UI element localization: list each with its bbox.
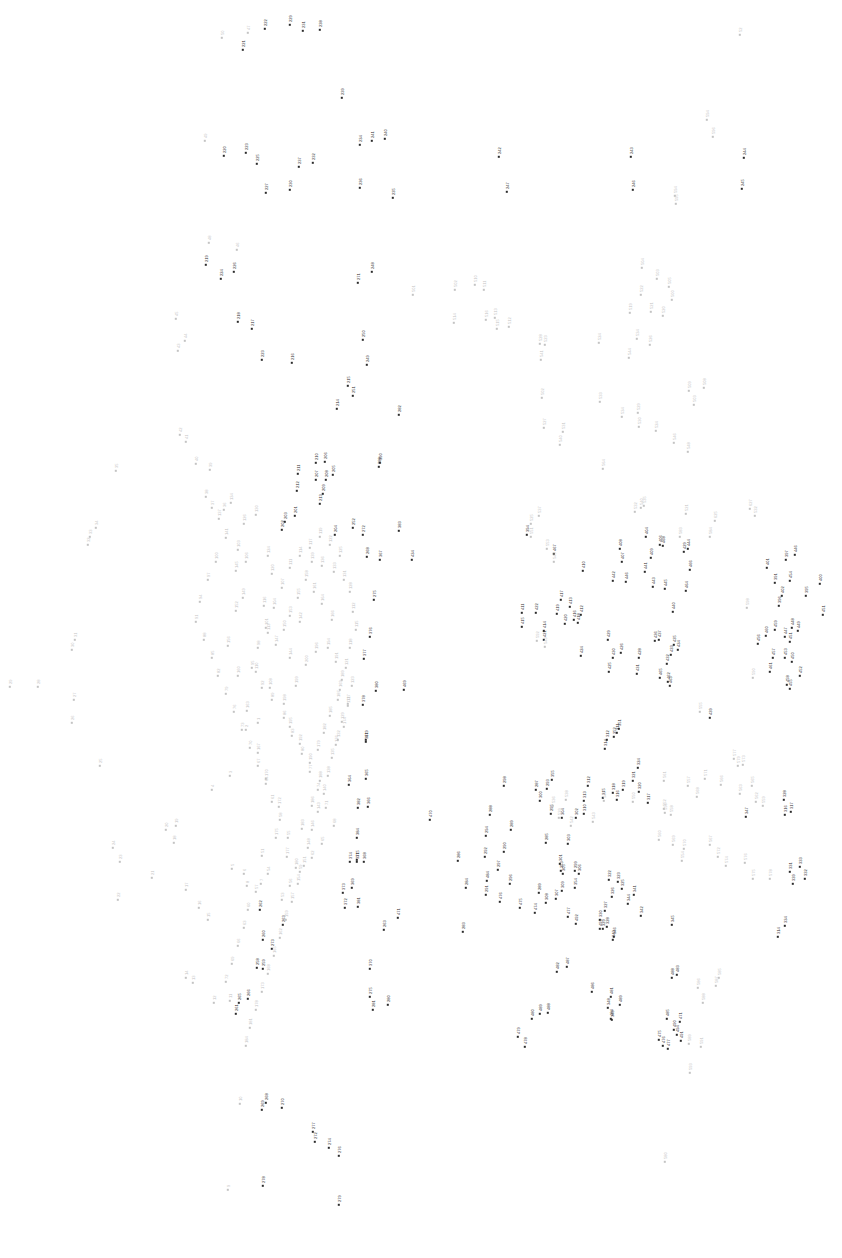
scatter-point-label: 36 bbox=[223, 502, 227, 507]
scatter-point bbox=[317, 789, 319, 791]
scatter-point bbox=[379, 462, 381, 464]
scatter-point bbox=[573, 619, 575, 621]
scatter-point-label: 468 bbox=[662, 536, 666, 543]
scatter-point bbox=[184, 340, 186, 342]
scatter-point bbox=[503, 785, 505, 787]
scatter-point-label: 514 bbox=[453, 313, 457, 320]
scatter-point bbox=[610, 1018, 612, 1020]
scatter-point-label: 434 bbox=[677, 640, 681, 647]
scatter-point bbox=[283, 717, 285, 719]
scatter-point-label: 164 bbox=[321, 594, 325, 601]
scatter-point bbox=[229, 775, 231, 777]
scatter-point-label: 74 bbox=[317, 782, 321, 787]
scatter-point bbox=[749, 508, 751, 510]
scatter-point-label: 50 bbox=[221, 30, 225, 35]
scatter-point-label: 155 bbox=[297, 588, 301, 595]
scatter-point-label: 183 bbox=[301, 819, 305, 826]
scatter-point bbox=[237, 675, 239, 677]
scatter-point-label: 272 bbox=[314, 1132, 318, 1139]
scatter-point-label: 22 bbox=[117, 892, 121, 897]
scatter-point-label: 576 bbox=[744, 853, 748, 860]
scatter-point bbox=[235, 610, 237, 612]
scatter-point bbox=[231, 868, 233, 870]
scatter-point-label: 235 bbox=[392, 188, 396, 195]
scatter-point bbox=[239, 1103, 241, 1105]
scatter-point bbox=[351, 685, 353, 687]
scatter-point bbox=[751, 785, 753, 787]
scatter-point bbox=[454, 289, 456, 291]
scatter-point bbox=[560, 870, 562, 872]
scatter-point-label: 7 bbox=[260, 879, 264, 881]
scatter-point-label: 411 bbox=[521, 603, 525, 610]
scatter-point-label: 307 bbox=[555, 889, 559, 896]
scatter-point bbox=[544, 344, 546, 346]
scatter-point-label: 317 bbox=[647, 793, 651, 800]
scatter-point-label: 525 bbox=[530, 514, 534, 521]
scatter-point bbox=[289, 885, 291, 887]
scatter-point bbox=[261, 855, 263, 857]
scatter-point bbox=[298, 166, 300, 168]
scatter-point bbox=[333, 571, 335, 573]
scatter-point bbox=[311, 857, 313, 859]
scatter-point-label: 248 bbox=[371, 262, 375, 269]
scatter-point-label: 243 bbox=[630, 147, 634, 154]
scatter-point-label: 17 bbox=[185, 882, 189, 887]
scatter-point bbox=[599, 401, 601, 403]
scatter-point-label: 285 bbox=[545, 833, 549, 840]
scatter-point bbox=[207, 919, 209, 921]
scatter-point-label: 535 bbox=[643, 496, 647, 503]
scatter-point bbox=[247, 32, 249, 34]
scatter-point bbox=[281, 587, 283, 589]
scatter-point-label: 152 bbox=[235, 601, 239, 608]
scatter-point-label: 486 bbox=[591, 982, 595, 989]
scatter-point bbox=[332, 474, 334, 476]
scatter-point-label: 309 bbox=[561, 881, 565, 888]
scatter-point bbox=[309, 547, 311, 549]
scatter-point bbox=[429, 819, 431, 821]
scatter-point bbox=[265, 783, 267, 785]
scatter-point-label: 100 bbox=[215, 552, 219, 559]
scatter-point bbox=[706, 119, 708, 121]
scatter-point-label: 82 bbox=[217, 668, 221, 673]
scatter-point-label: 313 bbox=[583, 791, 587, 798]
scatter-point bbox=[664, 1161, 666, 1163]
scatter-point-label: 288 bbox=[489, 805, 493, 812]
scatter-point-label: 562 bbox=[755, 792, 759, 799]
scatter-point bbox=[555, 898, 557, 900]
scatter-point-label: 532 bbox=[754, 506, 758, 513]
scatter-point-label: 205 bbox=[332, 465, 336, 472]
scatter-point bbox=[702, 1002, 704, 1004]
scatter-point-label: 488 bbox=[547, 1003, 551, 1010]
scatter-point bbox=[744, 862, 746, 864]
scatter-point bbox=[703, 387, 705, 389]
scatter-point bbox=[275, 644, 277, 646]
scatter-point bbox=[213, 1002, 215, 1004]
scatter-point bbox=[315, 462, 317, 464]
scatter-point bbox=[287, 837, 289, 839]
scatter-point-label: 244 bbox=[743, 148, 747, 155]
scatter-point-label: 196 bbox=[315, 642, 319, 649]
scatter-point-label: 550 bbox=[632, 792, 636, 799]
scatter-point bbox=[372, 1009, 374, 1011]
scatter-point bbox=[696, 796, 698, 798]
scatter-point bbox=[307, 847, 309, 849]
scatter-point bbox=[218, 518, 220, 520]
scatter-point-label: 588 bbox=[702, 993, 706, 1000]
scatter-point-label: 26 bbox=[71, 715, 75, 720]
scatter-point-label: 551 bbox=[530, 527, 534, 534]
scatter-point-label: 354 bbox=[574, 878, 578, 885]
scatter-point bbox=[668, 286, 670, 288]
scatter-point bbox=[349, 591, 351, 593]
scatter-point-label: 222 bbox=[264, 19, 268, 26]
scatter-point-label: 536 bbox=[552, 796, 556, 803]
scatter-point-label: 195 bbox=[289, 717, 293, 724]
scatter-point bbox=[485, 894, 487, 896]
scatter-point-label: 586 bbox=[697, 978, 701, 985]
scatter-point bbox=[662, 545, 664, 547]
scatter-point bbox=[411, 559, 413, 561]
scatter-point-label: 330 bbox=[599, 910, 603, 917]
scatter-point bbox=[295, 867, 297, 869]
scatter-point bbox=[792, 883, 794, 885]
scatter-point-label: 246 bbox=[632, 180, 636, 187]
scatter-point bbox=[281, 1107, 283, 1109]
